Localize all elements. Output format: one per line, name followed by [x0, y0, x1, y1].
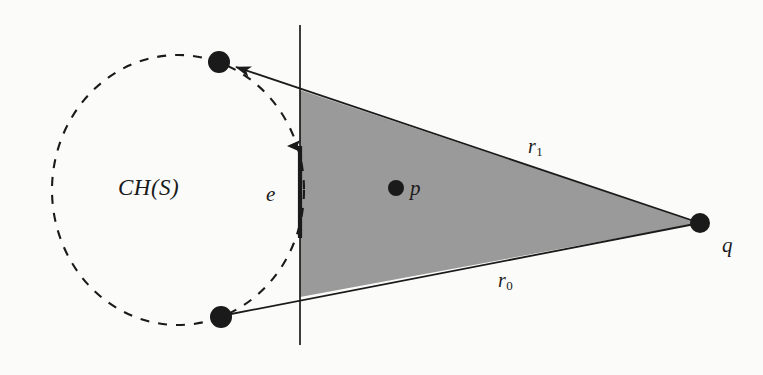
point-p-dot — [388, 180, 404, 196]
ray-r0-label-base: r — [498, 269, 506, 291]
ray-r1-label-base: r — [528, 135, 536, 157]
figure-canvas — [0, 0, 763, 375]
ray-r0-label: r0 — [498, 270, 513, 292]
hull-vertex-top-dot — [208, 51, 230, 73]
point-p-label: p — [410, 178, 421, 199]
ray-r0-label-sub: 0 — [506, 278, 513, 293]
shaded-wedge-region — [300, 90, 700, 297]
geometry-figure: CH(S) e p q r1 r0 — [0, 0, 763, 375]
ray-r1-label-sub: 1 — [536, 144, 543, 159]
convex-hull-label: CH(S) — [118, 176, 179, 199]
edge-label-e: e — [266, 184, 275, 205]
hull-vertex-bottom-dot — [210, 306, 232, 328]
ray-r1-label: r1 — [528, 136, 543, 158]
point-q-dot — [690, 213, 710, 233]
point-q-label: q — [722, 235, 733, 256]
